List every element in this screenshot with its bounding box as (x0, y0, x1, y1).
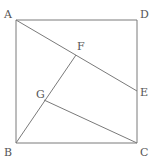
label-e: E (140, 86, 148, 99)
label-b: B (4, 146, 12, 159)
label-c: C (140, 146, 148, 159)
label-g: G (36, 88, 45, 101)
segment-bf (16, 55, 76, 143)
label-f: F (77, 40, 85, 53)
label-a: A (3, 8, 13, 21)
geometry-diagram: A D F E G B C (0, 0, 155, 159)
segment-ae (16, 20, 137, 91)
segment-cg (44, 100, 137, 143)
label-d: D (140, 8, 149, 21)
